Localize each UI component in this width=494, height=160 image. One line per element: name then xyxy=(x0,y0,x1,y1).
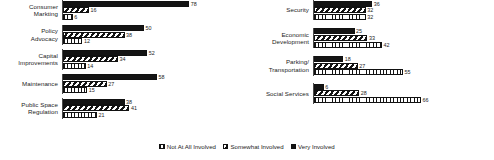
category-label-line: Consumer xyxy=(0,3,58,10)
bar-somewhat-involved[interactable] xyxy=(63,105,129,111)
bar-not-at-all-involved[interactable] xyxy=(314,69,403,75)
bar-value-label: 6 xyxy=(325,84,328,90)
legend-item[interactable]: Very Involved xyxy=(291,143,335,150)
chart-panel-right: Security363232EconomicDevelopment253342P… xyxy=(247,0,494,140)
category-label: PolicyAdvocacy xyxy=(0,27,62,42)
category-plot-area: 523414 xyxy=(62,49,240,69)
bar-line: 66 xyxy=(314,97,494,103)
bar-value-label: 41 xyxy=(131,105,137,111)
bar-line: 33 xyxy=(314,35,494,41)
chart-category-row: Maintenance582715 xyxy=(0,74,240,94)
bar-value-label: 27 xyxy=(108,81,114,87)
bar-not-at-all-involved[interactable] xyxy=(63,63,86,69)
category-label-line: Public Space xyxy=(0,101,58,108)
category-label-line: Security xyxy=(247,6,309,13)
category-plot-area: 363232 xyxy=(313,0,494,20)
bar-value-label: 14 xyxy=(87,63,93,69)
category-label-line: Markting xyxy=(0,10,58,17)
bar-somewhat-involved[interactable] xyxy=(314,90,359,96)
bar-not-at-all-involved[interactable] xyxy=(314,14,366,20)
bar-very-involved[interactable] xyxy=(63,1,189,7)
bar-not-at-all-involved[interactable] xyxy=(63,38,82,44)
bar-line: 78 xyxy=(63,1,240,7)
bar-value-label: 12 xyxy=(84,38,90,44)
category-label-line: Regulation xyxy=(0,108,58,115)
bar-value-label: 66 xyxy=(422,97,428,103)
bar-value-label: 78 xyxy=(191,1,197,7)
bar-value-label: 27 xyxy=(359,63,365,69)
bar-line: 34 xyxy=(63,56,240,62)
category-label: Public SpaceRegulation xyxy=(0,101,62,116)
bar-value-label: 55 xyxy=(405,69,411,75)
category-label-line: Economic xyxy=(247,31,309,38)
category-plot-area: 384121 xyxy=(62,98,240,118)
bar-line: 55 xyxy=(314,69,494,75)
category-plot-area: 582715 xyxy=(62,74,240,94)
bar-value-label: 42 xyxy=(384,42,390,48)
bar-value-label: 6 xyxy=(74,14,77,20)
bar-very-involved[interactable] xyxy=(63,50,147,56)
bar-line: 6 xyxy=(63,14,240,20)
bar-line: 27 xyxy=(63,81,240,87)
legend-swatch-icon xyxy=(223,144,229,150)
bar-line: 6 xyxy=(314,84,494,90)
chart-category-row: ConsumerMarkting78166 xyxy=(0,0,240,20)
category-label: Social Services xyxy=(247,90,313,97)
bar-line: 32 xyxy=(314,14,494,20)
bar-value-label: 15 xyxy=(89,87,95,93)
bar-value-label: 32 xyxy=(367,7,373,13)
bar-very-involved[interactable] xyxy=(63,99,125,105)
bar-line: 18 xyxy=(314,56,494,62)
bar-somewhat-involved[interactable] xyxy=(63,32,125,38)
bar-line: 27 xyxy=(314,63,494,69)
bar-line: 32 xyxy=(314,7,494,13)
bar-line: 16 xyxy=(63,7,240,13)
bar-value-label: 18 xyxy=(345,56,351,62)
category-label: EconomicDevelopment xyxy=(247,31,313,46)
chart-category-row: Parking/Transportation182755 xyxy=(247,56,494,76)
bar-value-label: 58 xyxy=(158,74,164,80)
bar-line: 25 xyxy=(314,28,494,34)
bar-very-involved[interactable] xyxy=(314,84,324,90)
bar-somewhat-involved[interactable] xyxy=(314,35,367,41)
legend-item[interactable]: Not At All Involved xyxy=(159,143,216,150)
bar-value-label: 28 xyxy=(361,90,367,96)
bar-value-label: 33 xyxy=(369,35,375,41)
chart-category-row: CapitalImprovements523414 xyxy=(0,49,240,69)
category-label: Parking/Transportation xyxy=(247,58,313,73)
bar-not-at-all-involved[interactable] xyxy=(63,14,73,20)
bar-somewhat-involved[interactable] xyxy=(63,81,107,87)
category-plot-area: 503812 xyxy=(62,25,240,45)
category-plot-area: 62866 xyxy=(313,83,494,103)
bar-value-label: 38 xyxy=(126,99,132,105)
bar-value-label: 25 xyxy=(356,28,362,34)
bar-not-at-all-involved[interactable] xyxy=(314,97,421,103)
category-plot-area: 78166 xyxy=(62,0,240,20)
bar-very-involved[interactable] xyxy=(314,1,372,7)
category-label-line: Transportation xyxy=(247,66,309,73)
bar-value-label: 52 xyxy=(149,50,155,56)
bar-line: 50 xyxy=(63,25,240,31)
bar-line: 15 xyxy=(63,87,240,93)
category-label-line: Parking/ xyxy=(247,58,309,65)
category-label-line: Development xyxy=(247,38,309,45)
bar-value-label: 34 xyxy=(120,56,126,62)
chart-category-row: PolicyAdvocacy503812 xyxy=(0,25,240,45)
involvement-bar-chart-figure: ConsumerMarkting78166PolicyAdvocacy50381… xyxy=(0,0,494,160)
bar-line: 21 xyxy=(63,112,240,118)
bar-somewhat-involved[interactable] xyxy=(314,7,366,13)
bar-very-involved[interactable] xyxy=(63,25,144,31)
bar-somewhat-involved[interactable] xyxy=(63,7,89,13)
bar-very-involved[interactable] xyxy=(314,56,343,62)
bar-not-at-all-involved[interactable] xyxy=(314,42,382,48)
category-label-line: Advocacy xyxy=(0,35,58,42)
bar-somewhat-involved[interactable] xyxy=(63,56,118,62)
bar-value-label: 50 xyxy=(146,25,152,31)
bar-line: 36 xyxy=(314,1,494,7)
bar-very-involved[interactable] xyxy=(314,28,355,34)
bar-not-at-all-involved[interactable] xyxy=(63,87,87,93)
legend-item[interactable]: Somewhat Involved xyxy=(223,143,284,150)
bar-not-at-all-involved[interactable] xyxy=(63,112,97,118)
bar-very-involved[interactable] xyxy=(63,74,157,80)
bar-somewhat-involved[interactable] xyxy=(314,63,358,69)
